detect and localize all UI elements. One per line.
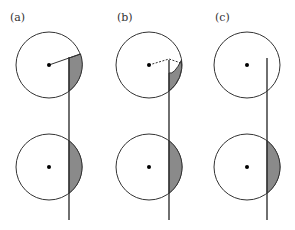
- center-dot: [47, 63, 51, 67]
- panel-label-c: (c): [215, 11, 230, 24]
- panel-b-bottom: [116, 134, 182, 200]
- shaded-segment: [267, 141, 280, 194]
- panel-c-top: [214, 32, 280, 98]
- center-dot: [47, 165, 51, 169]
- panel-a-top: [16, 32, 82, 98]
- panel-a-bottom: [16, 134, 82, 200]
- panel-label-b: (b): [117, 11, 133, 24]
- shaded-segment: [69, 54, 82, 91]
- panel-label-a: (a): [10, 11, 25, 24]
- center-dot: [245, 63, 249, 67]
- panel-c-bottom: [214, 134, 280, 200]
- circle-line-diagram: (a) (b) (c): [0, 0, 295, 230]
- shaded-segment: [69, 141, 82, 194]
- shaded-segment: [169, 141, 182, 194]
- center-dot: [147, 63, 151, 67]
- panel-b-top: [116, 32, 182, 98]
- center-dot: [147, 165, 151, 169]
- center-dot: [245, 165, 249, 169]
